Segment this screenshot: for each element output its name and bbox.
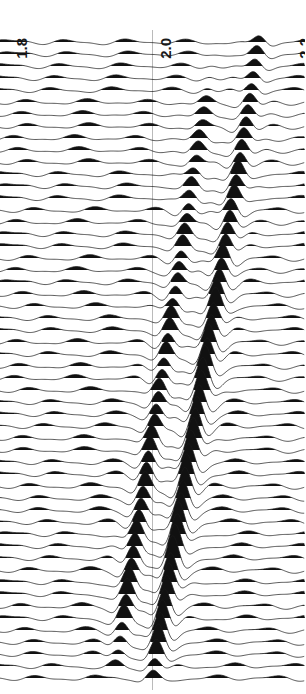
trace-fill <box>10 345 305 366</box>
trace-line <box>0 234 304 254</box>
trace-fill <box>0 84 304 90</box>
trace-line <box>0 315 304 340</box>
trace-fill <box>20 371 283 390</box>
trace-line <box>0 105 304 120</box>
trace-line <box>0 128 304 143</box>
trace-line <box>0 502 304 533</box>
trace-line <box>0 258 304 276</box>
trace-fill <box>20 244 282 258</box>
trace-line <box>0 303 304 327</box>
trace-line <box>0 345 304 375</box>
trace-fill <box>25 287 288 306</box>
trace-fill <box>8 140 305 150</box>
wiggle-trace-canvas <box>0 30 305 690</box>
trace-line <box>0 287 304 313</box>
trace-line <box>0 524 304 557</box>
trace-line <box>0 210 304 229</box>
trace-line <box>0 589 304 616</box>
trace-line <box>0 371 304 400</box>
trace-line <box>0 536 304 569</box>
trace-line <box>0 358 304 389</box>
trace-line <box>0 222 304 241</box>
trace-fill <box>16 93 278 102</box>
trace-fill <box>23 639 286 654</box>
trace-fill <box>5 358 306 378</box>
trace-line <box>0 140 304 157</box>
trace-fill <box>7 324 305 342</box>
trace-line <box>0 199 304 217</box>
trace-fill <box>15 612 278 630</box>
seismic-wiggle-figure: 1.8 2.0 2.2 <box>0 0 305 694</box>
trace-fill <box>14 430 306 450</box>
trace-line <box>0 576 304 605</box>
trace-fill <box>24 199 287 210</box>
trace-fill <box>18 153 280 162</box>
trace-line <box>0 279 304 303</box>
wiggle-trace-plot-area <box>0 30 305 690</box>
trace-line <box>0 184 304 204</box>
trace-fill <box>13 105 305 114</box>
trace-line <box>0 244 304 266</box>
